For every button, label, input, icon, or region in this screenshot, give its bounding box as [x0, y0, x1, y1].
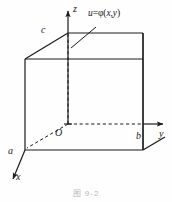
surface-equation-label: u=φ(x,y) — [88, 9, 120, 19]
coordinate-box-diagram — [0, 0, 172, 202]
leader-line — [71, 27, 96, 48]
vertex-label-a: a — [8, 146, 13, 156]
vertex-label-c: c — [41, 25, 45, 35]
axis-label-z: z — [73, 4, 77, 14]
axis-label-y: y — [159, 129, 163, 139]
box-edge-top-left-diagonal — [25, 33, 68, 59]
equation-leader-line-group — [71, 27, 96, 48]
box-hidden-edges-group — [27, 33, 143, 148]
axis-label-x: x — [16, 172, 20, 182]
equation-paren-close: ) — [117, 8, 120, 18]
figure-container: z y x a b c O u=φ(x,y) 图 9-2 — [0, 0, 172, 202]
vertex-label-b: b — [136, 131, 141, 141]
origin-label: O — [55, 128, 62, 138]
axes-group — [13, 11, 163, 179]
box-visible-edges-group — [25, 33, 165, 150]
figure-caption: 图 9-2 — [0, 187, 172, 198]
